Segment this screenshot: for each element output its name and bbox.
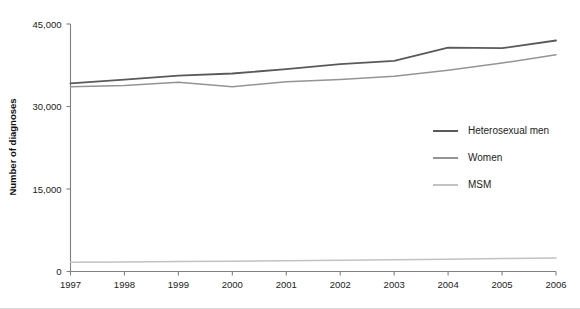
y-axis-title: Number of diagnoses — [7, 98, 18, 195]
x-tick-label: 1997 — [60, 279, 81, 290]
x-tick-label: 2003 — [384, 279, 405, 290]
line-chart: 015,00030,00045,000 Number of diagnoses … — [0, 0, 580, 309]
x-axis: 1997199819992000200120022003200420052006 — [60, 272, 567, 290]
chart-container: 015,00030,00045,000 Number of diagnoses … — [0, 0, 580, 309]
y-tick-label: 30,000 — [32, 101, 61, 112]
legend-label-women: Women — [468, 152, 502, 163]
x-tick-label: 2006 — [545, 279, 566, 290]
legend-label-msm: MSM — [468, 179, 491, 190]
y-tick-label: 15,000 — [32, 184, 61, 195]
series-line-heterosexual-men — [71, 41, 557, 84]
x-tick-label: 1999 — [168, 279, 189, 290]
x-tick-label: 2002 — [330, 279, 351, 290]
x-tick-label: 1998 — [114, 279, 135, 290]
y-axis-ticks: 015,00030,00045,000 — [32, 19, 70, 278]
x-tick-label: 2005 — [491, 279, 512, 290]
x-tick-label: 2000 — [222, 279, 243, 290]
x-axis-ticks: 1997199819992000200120022003200420052006 — [60, 272, 567, 290]
legend: Heterosexual menWomenMSM — [433, 125, 549, 190]
series-line-msm — [71, 258, 557, 262]
x-tick-label: 2004 — [438, 279, 459, 290]
series-line-women — [71, 55, 557, 87]
x-tick-label: 2001 — [276, 279, 297, 290]
legend-label-heterosexual-men: Heterosexual men — [468, 125, 549, 136]
y-tick-label: 45,000 — [32, 19, 61, 30]
y-axis: 015,00030,00045,000 Number of diagnoses — [7, 19, 71, 278]
y-tick-label: 0 — [56, 266, 61, 277]
